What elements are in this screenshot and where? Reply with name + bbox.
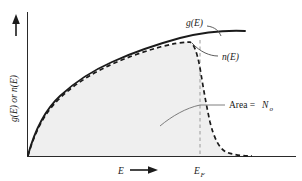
fermi-energy-label: E bbox=[193, 166, 200, 176]
x-axis-label: E bbox=[117, 166, 124, 176]
energy-distribution-chart: g(E) or n(E) E E F g(E) n(E) Area = N o bbox=[0, 0, 302, 181]
area-label-subscript: o bbox=[270, 105, 274, 113]
n-of-e-label: n(E) bbox=[222, 52, 239, 63]
fermi-energy-subscript: F bbox=[200, 171, 206, 179]
x-axis-arrow-head bbox=[148, 166, 158, 173]
figure-container: g(E) or n(E) E E F g(E) n(E) Area = N o bbox=[0, 0, 302, 181]
shaded-area-region bbox=[28, 42, 252, 156]
area-label-symbol: N bbox=[261, 100, 269, 110]
g-of-e-label: g(E) bbox=[186, 18, 203, 29]
y-axis-label: g(E) or n(E) bbox=[9, 75, 20, 122]
y-axis-label-group: g(E) or n(E) bbox=[9, 75, 20, 122]
y-axis-arrow-head bbox=[12, 14, 20, 24]
fermi-energy-tick-label-group: E F bbox=[193, 166, 206, 179]
area-label-text: Area = bbox=[229, 100, 255, 110]
area-annotation-group: Area = N o bbox=[229, 100, 274, 113]
